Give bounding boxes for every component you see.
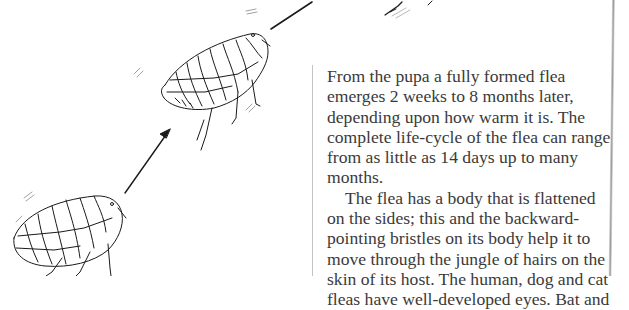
- text-line: complete life-cycle of the flea can rang…: [327, 127, 627, 147]
- body-text: From the pupa a fully formed flea emerge…: [327, 66, 627, 310]
- text-line: months.: [327, 167, 627, 187]
- motion-marks-middle: [134, 9, 257, 112]
- arrow-upper-icon: [271, 2, 312, 29]
- text-line: move through the jungle of hairs on the: [327, 249, 627, 269]
- paragraph-2: The flea has a body that is flattened on…: [327, 188, 627, 310]
- text-line: fleas have well-developed eyes. Bat and: [327, 289, 627, 309]
- text-line: emerges 2 weeks to 8 months later,: [327, 86, 627, 106]
- text-line: skin of its host. The human, dog and cat: [327, 269, 627, 289]
- text-line: pointing bristles on its body help it to: [327, 228, 627, 248]
- text-line: on the sides; this and the backward-: [327, 208, 627, 228]
- motion-marks-lower: [16, 192, 34, 222]
- flea-middle-icon: [161, 34, 270, 151]
- flea-top-partial-icon: [385, 1, 432, 15]
- flea-lower-left-icon: [14, 196, 126, 276]
- text-line: The flea has a body that is flattened: [327, 188, 627, 208]
- arrow-lower-icon: [125, 129, 170, 193]
- column-rule: [312, 65, 313, 276]
- paragraph-1: From the pupa a fully formed flea emerge…: [327, 66, 627, 188]
- text-line: from as little as 14 days up to many: [327, 147, 627, 167]
- text-line: From the pupa a fully formed flea: [327, 66, 627, 86]
- text-line: depending upon how warm it is. The: [327, 107, 627, 127]
